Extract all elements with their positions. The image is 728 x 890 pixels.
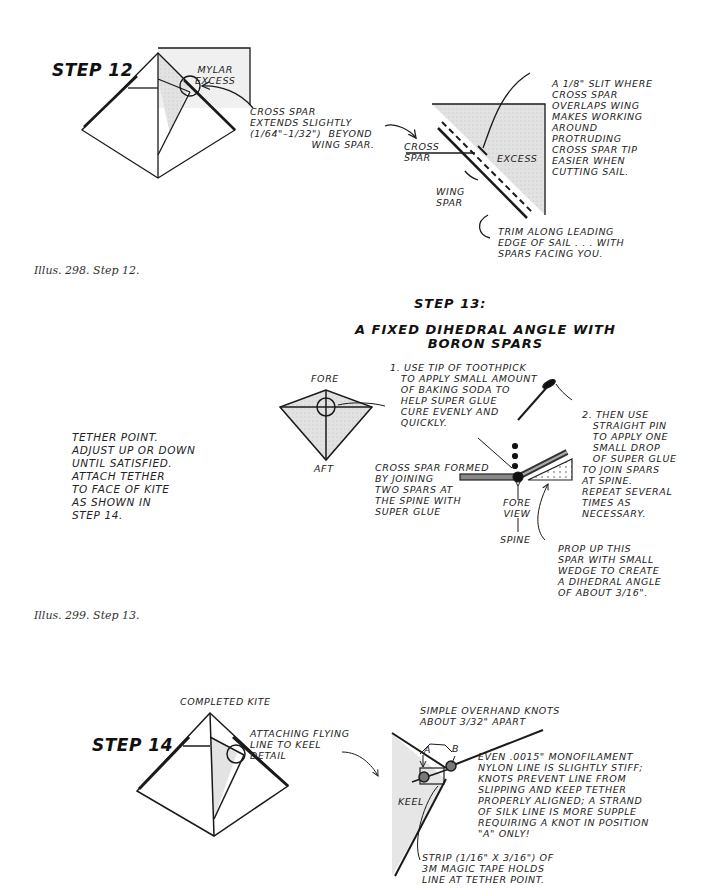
illus-298-caption: Illus. 298. Step 12. <box>34 264 140 277</box>
super-glue-note: 2. THEN USE STRAIGHT PIN TO APPLY ONE SM… <box>582 409 677 519</box>
attaching-line-note: ATTACHING FLYING LINE TO KEEL DETAIL <box>250 728 350 761</box>
knot-a-label: A <box>424 744 431 755</box>
wing-spar-label: WING SPAR <box>436 186 465 208</box>
cross-spar-label: CROSS SPAR <box>404 141 439 163</box>
monofilament-note: EVEN .0015" MONOFILAMENT NYLON LINE IS S… <box>478 751 649 839</box>
step14-title: STEP 14 <box>92 735 173 755</box>
overhand-knots-note: SIMPLE OVERHAND KNOTS ABOUT 3/32" APART <box>420 705 560 727</box>
slit-note: A 1/8" SLIT WHERE CROSS SPAR OVERLAPS WI… <box>552 78 653 177</box>
trim-note: TRIM ALONG LEADING EDGE OF SAIL . . . WI… <box>498 226 624 259</box>
completed-kite-label: COMPLETED KITE <box>180 696 271 707</box>
baking-soda-note: 1. USE TIP OF TOOTHPICK TO APPLY SMALL A… <box>390 362 537 428</box>
prop-wedge-note: PROP UP THIS SPAR WITH SMALL WEDGE TO CR… <box>558 543 661 598</box>
spine-label: SPINE <box>500 534 531 545</box>
cross-spar-formed-note: CROSS SPAR FORMED BY JOINING TWO SPARS A… <box>375 462 489 517</box>
illus-299-caption: Illus. 299. Step 13. <box>34 609 140 622</box>
step13-kite-drawing <box>280 390 385 460</box>
knot-b-label: B <box>452 743 459 754</box>
fore-label: FORE <box>311 373 339 384</box>
magic-tape-strip-note: STRIP (1/16" X 3/16") OF 3M MAGIC TAPE H… <box>422 852 554 885</box>
keel-label: KEEL <box>398 796 424 807</box>
aft-label: AFT <box>314 463 334 474</box>
cross-spar-extends-note: CROSS SPAR EXTENDS SLIGHTLY (1/64"–1/32"… <box>250 106 375 150</box>
step12-title: STEP 12 <box>52 60 133 80</box>
mylar-excess-label: MYLAR EXCESS <box>195 64 235 86</box>
tether-point-note: TETHER POINT. ADJUST UP OR DOWN UNTIL SA… <box>72 431 196 522</box>
step13-title: STEP 13: <box>414 297 486 311</box>
excess-label: EXCESS <box>497 153 537 164</box>
step13-subtitle: A FIXED DIHEDRAL ANGLE WITH BORON SPARS <box>355 323 616 351</box>
fore-view-label: FORE VIEW <box>503 497 531 519</box>
